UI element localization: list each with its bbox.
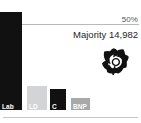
bar-label-c: C: [52, 103, 57, 110]
bar-label-lab: Lab: [2, 103, 14, 110]
footer-divider: [3, 117, 138, 118]
majority-annotation: Majority 14,982: [73, 29, 138, 40]
bar-label-ld: LD: [29, 103, 38, 110]
bar-group-c: C: [50, 89, 66, 111]
bar-lab: [0, 12, 22, 111]
labour-rose-emblem: [101, 47, 131, 76]
bar-group-ld: LD: [27, 86, 47, 111]
bar-label-bnp: BNP: [73, 103, 87, 110]
threshold-label: 50%: [122, 15, 138, 24]
bar-group-lab: Lab: [0, 12, 22, 111]
election-result-bar-chart: Lab LD C BNP 50% Majority 14,982: [0, 0, 141, 123]
chart-baseline: [0, 110, 141, 111]
threshold-line-50-percent: [22, 24, 139, 25]
